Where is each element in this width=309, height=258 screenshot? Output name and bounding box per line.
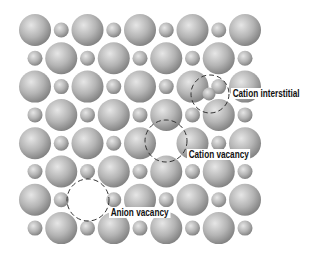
- label-cation-interstitial: Cation interstitial: [231, 88, 301, 99]
- anion-sphere: [150, 156, 182, 188]
- anion-sphere: [19, 14, 51, 46]
- cation-sphere: [185, 221, 200, 236]
- cation-sphere: [80, 107, 95, 122]
- anion-sphere: [45, 156, 77, 188]
- cation-sphere: [106, 23, 121, 38]
- cation-sphere: [159, 79, 174, 94]
- cation-sphere: [54, 136, 69, 151]
- cation-sphere: [133, 107, 148, 122]
- cation-sphere: [106, 136, 121, 151]
- anion-sphere: [45, 99, 77, 131]
- anion-sphere: [72, 127, 104, 159]
- cation-sphere: [185, 164, 200, 179]
- anion-sphere: [124, 14, 156, 46]
- anion-sphere: [19, 71, 51, 103]
- cation-sphere: [133, 164, 148, 179]
- cation-sphere: [28, 107, 43, 122]
- cation-sphere: [159, 23, 174, 38]
- cation-sphere: [80, 51, 95, 66]
- cation-sphere: [211, 23, 226, 38]
- anion-sphere: [98, 99, 130, 131]
- anion-sphere: [45, 42, 77, 74]
- anion-sphere: [19, 184, 51, 216]
- cation-sphere: [80, 164, 95, 179]
- cation-sphere: [238, 107, 253, 122]
- anion-sphere: [19, 127, 51, 159]
- anion-sphere: [203, 42, 235, 74]
- anion-sphere: [124, 71, 156, 103]
- cation-sphere: [106, 79, 121, 94]
- anion-sphere: [98, 156, 130, 188]
- cation-sphere: [238, 51, 253, 66]
- interstitial-cation-sphere: [203, 88, 216, 101]
- cation-sphere: [54, 79, 69, 94]
- cation-sphere: [28, 51, 43, 66]
- cation-sphere: [238, 221, 253, 236]
- ionic-lattice: [0, 0, 309, 258]
- anion-sphere: [229, 184, 261, 216]
- anion-sphere: [150, 99, 182, 131]
- anion-sphere: [124, 127, 156, 159]
- anion-sphere: [72, 14, 104, 46]
- anion-sphere: [72, 71, 104, 103]
- cation-sphere: [54, 23, 69, 38]
- anion-sphere: [150, 42, 182, 74]
- cation-sphere: [133, 221, 148, 236]
- anion-sphere: [203, 156, 235, 188]
- cation-sphere: [238, 164, 253, 179]
- label-cation-vacancy: Cation vacancy: [187, 149, 250, 160]
- anion-sphere: [45, 212, 77, 244]
- cation-sphere: [28, 221, 43, 236]
- anion-sphere: [203, 212, 235, 244]
- cation-sphere: [185, 51, 200, 66]
- anion-sphere: [229, 14, 261, 46]
- anion-sphere: [177, 14, 209, 46]
- anion-sphere: [177, 184, 209, 216]
- cation-sphere: [80, 221, 95, 236]
- label-anion-vacancy: Anion vacancy: [109, 207, 170, 218]
- cation-sphere: [211, 192, 226, 207]
- cation-sphere: [159, 192, 174, 207]
- cation-sphere: [185, 107, 200, 122]
- cation-sphere: [54, 192, 69, 207]
- anion-sphere: [203, 99, 235, 131]
- cation-sphere: [133, 51, 148, 66]
- crystal-defects-figure: Cation interstitial Cation vacancy Anion…: [0, 0, 309, 258]
- anion-sphere: [98, 42, 130, 74]
- anion-vacancy-marker: [67, 179, 109, 221]
- cation-sphere: [28, 164, 43, 179]
